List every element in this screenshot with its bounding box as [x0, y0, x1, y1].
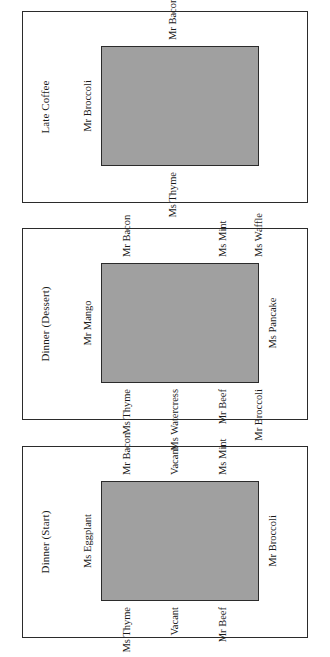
seat-label: Ms Thyme [121, 607, 132, 653]
dining-table [101, 263, 259, 383]
panel-title: Dinner (Dessert) [39, 229, 51, 419]
seating-panel: Dinner (Start)Ms EggplantMs ThymeMr Baco… [22, 446, 308, 638]
seat-label: Mr Mango [82, 300, 93, 345]
seat-label: Vacant [169, 446, 180, 475]
seat-occupant-name: Ms Mint [217, 221, 228, 257]
seat-occupant-name: Ms Pancake [267, 297, 278, 348]
rotated-figure-wrapper: Dinner (Start)Ms EggplantMs ThymeMr Baco… [0, 0, 330, 657]
dining-table [101, 481, 259, 601]
seat-occupant-name: Ms Watercress [169, 389, 180, 451]
seat-label: Ms Thyme [121, 389, 132, 435]
seat-occupant-name: Ms Thyme [121, 389, 132, 435]
seat-label: Ms Pancake [267, 297, 278, 348]
seat-occupant-name: Vacant [169, 446, 180, 475]
seat-label: Ms Watercress [169, 389, 180, 451]
seat-label: Mr Bacon [121, 215, 132, 257]
seat-label: Mr Broccoli [253, 389, 264, 441]
seat-label: Ms Mint [217, 221, 228, 257]
seat-label: Ms Waffle [253, 213, 264, 257]
seat-label: Mr Beef [217, 607, 228, 642]
seat-label: Ms Thyme [167, 172, 178, 218]
dining-table [101, 46, 259, 166]
seat-label: Mr Beef [217, 389, 228, 424]
seat-occupant-name: Mr Broccoli [82, 80, 93, 132]
seat-occupant-name: Mr Beef [217, 607, 228, 642]
seat-label: Ms Eggplant [82, 514, 93, 568]
seat-occupant-name: Mr Broccoli [267, 515, 278, 567]
seat-label: Mr Bacon [167, 0, 178, 40]
seating-chart-figure: Dinner (Start)Ms EggplantMs ThymeMr Baco… [0, 0, 330, 657]
seat-occupant-name: Ms Thyme [167, 172, 178, 218]
panel-title: Late Coffee [39, 12, 51, 202]
seat-occupant-name: Mr Mango [82, 300, 93, 345]
seating-panel: Late CoffeeMr BroccoliMs ThymeMr Bacon [22, 11, 308, 203]
seat-label: Vacant [169, 607, 180, 636]
seat-occupant-name: Mr Bacon [167, 0, 178, 40]
seat-occupant-name: Mr Beef [217, 389, 228, 424]
seat-label: Mr Broccoli [267, 515, 278, 567]
seating-panel: Dinner (Dessert)Mr MangoMs ThymeMr Bacon… [22, 228, 308, 420]
seat-occupant-name: Mr Bacon [121, 215, 132, 257]
seat-occupant-name: Mr Broccoli [253, 389, 264, 441]
seat-occupant-name: Ms Thyme [121, 607, 132, 653]
seat-label: Mr Broccoli [82, 80, 93, 132]
seat-occupant-name: Mr Bacon [121, 433, 132, 475]
seat-occupant-name: Ms Eggplant [82, 514, 93, 568]
panel-title: Dinner (Start) [39, 447, 51, 637]
seat-label: Ms Mint [217, 439, 228, 475]
seat-occupant-name: Ms Mint [217, 439, 228, 475]
seat-label: Mr Bacon [121, 433, 132, 475]
seat-occupant-name: Vacant [169, 607, 180, 636]
seat-occupant-name: Ms Waffle [253, 213, 264, 257]
